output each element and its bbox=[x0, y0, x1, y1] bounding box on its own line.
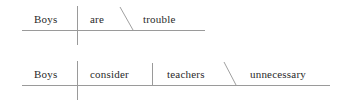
diagram-2-direct-object: teachers bbox=[167, 69, 205, 80]
diagram-2-subject: Boys bbox=[34, 69, 57, 80]
diagram-2-complement-slant bbox=[224, 62, 236, 85]
diagram-2-rules bbox=[0, 0, 347, 102]
sentence-diagram-canvas: Boys are trouble Boys consider teachers … bbox=[0, 0, 347, 102]
diagram-2-verb: consider bbox=[90, 69, 129, 80]
diagram-boys-consider-teachers-unnecessary: Boys consider teachers unnecessary bbox=[0, 0, 347, 102]
diagram-2-object-complement: unnecessary bbox=[250, 69, 306, 80]
